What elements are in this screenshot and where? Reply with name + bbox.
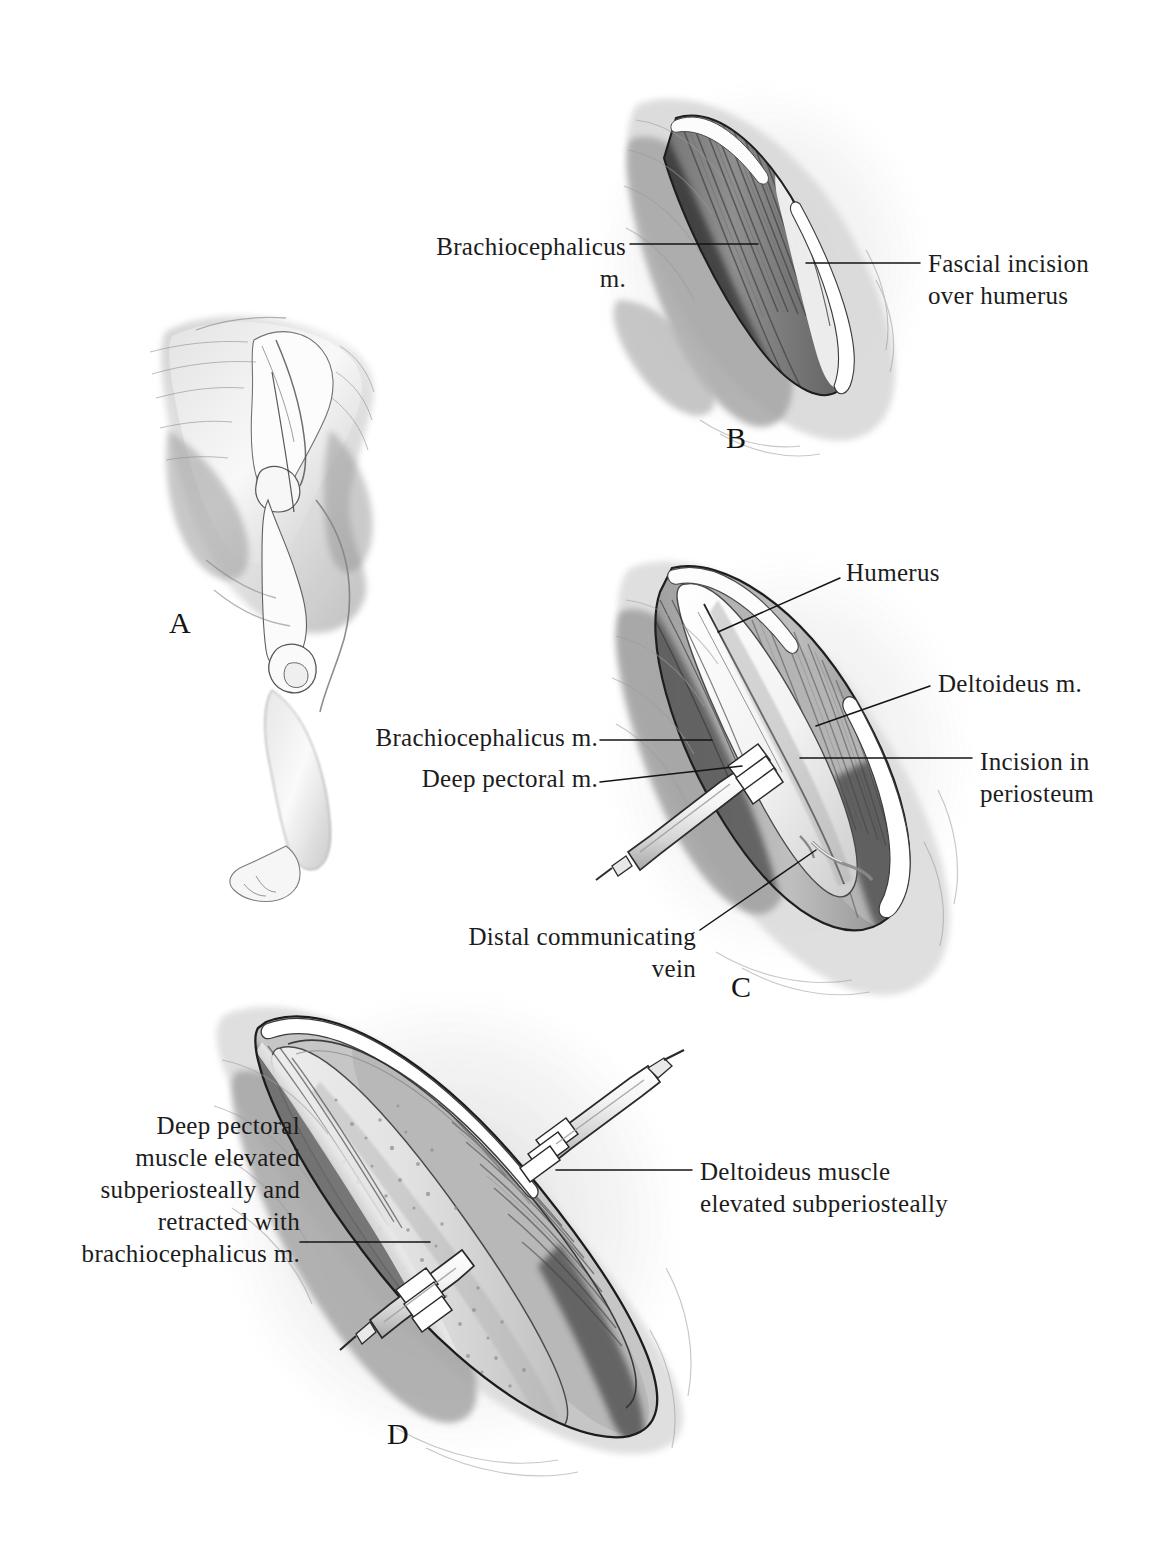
label-deltoideus-elevated-d: Deltoideus muscle elevated subperiosteal…: [700, 1156, 1000, 1220]
label-brachiocephalicus-c: Brachiocephalicus m.: [372, 722, 598, 754]
label-humerus: Humerus: [846, 557, 1046, 589]
label-fascial-incision-over-humerus: Fascial incision over humerus: [928, 248, 1158, 312]
label-deep-pectoral-elevated-d: Deep pectoral muscle elevated subperiost…: [40, 1110, 300, 1270]
label-distal-communicating-vein: Distal communicating vein: [458, 921, 696, 985]
panel-b-artwork: [592, 80, 932, 456]
label-incision-in-periosteum: Incision in periosteum: [980, 746, 1158, 810]
panel-letter-c: C: [731, 970, 752, 1004]
label-brachiocephalicus-b: Brachiocephalicus m.: [404, 231, 626, 295]
panel-letter-a: A: [169, 606, 191, 640]
label-deltoideus-c: Deltoideus m.: [938, 668, 1158, 700]
figure-page: Brachiocephalicus m. Fascial incision ov…: [0, 0, 1161, 1553]
label-deep-pectoral-c: Deep pectoral m.: [406, 763, 598, 795]
panel-letter-d: D: [387, 1417, 409, 1451]
panel-letter-b: B: [726, 421, 747, 455]
